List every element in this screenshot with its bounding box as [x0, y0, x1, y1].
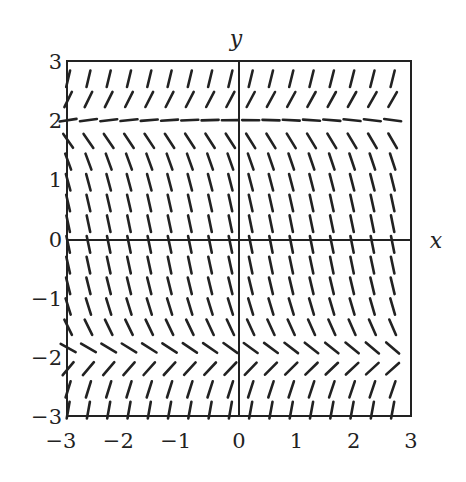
slope-segment [168, 257, 172, 274]
slope-segment [325, 343, 338, 354]
slope-segment [229, 236, 232, 253]
slope-segment [384, 119, 401, 121]
slope-segment [263, 120, 280, 121]
slope-segment [245, 363, 257, 375]
slope-segment [248, 154, 254, 170]
slope-segment [107, 195, 111, 212]
slope-segment [391, 215, 394, 232]
slope-segment [107, 71, 111, 88]
slope-segments [60, 71, 401, 419]
slope-segment [161, 120, 178, 121]
slope-segment [127, 298, 132, 314]
x-tick-label: 0 [232, 429, 245, 453]
slope-segment [330, 278, 334, 295]
slope-segment [225, 363, 237, 375]
slope-segment [249, 195, 253, 212]
slope-segment [101, 344, 116, 353]
y-tick-label: 0 [49, 228, 62, 252]
slope-segment [346, 363, 358, 375]
slope-segment [227, 320, 234, 336]
slope-segment [370, 154, 375, 170]
slope-segment [63, 362, 74, 375]
slope-segment [371, 195, 375, 212]
slope-segment [106, 154, 112, 170]
slope-segment [147, 195, 151, 212]
slope-segment [265, 363, 277, 375]
slope-segment [81, 344, 96, 353]
slope-segment [166, 320, 173, 335]
slope-segment [208, 298, 213, 314]
slope-segment [80, 119, 97, 121]
slope-segment [63, 134, 73, 148]
slope-segment [86, 381, 91, 397]
slope-segment [391, 257, 395, 274]
slope-segment [308, 320, 315, 336]
slope-segment [391, 278, 395, 295]
x-tick-label: −3 [46, 429, 77, 453]
slope-segment [87, 236, 91, 253]
slope-segment [364, 119, 381, 121]
slope-segment [310, 236, 313, 253]
slope-segment [289, 381, 294, 397]
slope-segment [391, 174, 395, 191]
slope-segment [144, 362, 155, 375]
slope-segment [106, 381, 111, 397]
slope-segment [127, 257, 131, 274]
slope-segment [229, 195, 233, 212]
slope-segment [183, 343, 197, 353]
slope-segment [307, 92, 315, 107]
slope-segment [85, 320, 93, 335]
slope-segment [226, 134, 235, 148]
slope-segment [87, 195, 91, 212]
slope-segment [349, 381, 354, 397]
slope-segment [305, 363, 317, 375]
slope-segment [287, 92, 295, 107]
slope-segment [309, 154, 315, 170]
slope-segment [370, 381, 375, 397]
slope-segment [328, 92, 336, 107]
y-axis-label: y [229, 26, 243, 51]
slope-segment [249, 174, 253, 190]
slope-segment [126, 154, 132, 170]
slope-field-chart: 3210−1−2−3 −3−2−10123 y x [0, 0, 466, 482]
slope-segment [269, 278, 273, 295]
slope-segment [350, 195, 354, 212]
slope-segment [107, 236, 110, 253]
slope-segment [289, 71, 293, 88]
slope-segment [208, 236, 211, 253]
slope-segment [368, 92, 376, 107]
slope-segment [168, 278, 172, 295]
slope-segment [350, 257, 353, 274]
slope-segment [249, 215, 252, 232]
slope-segment [165, 134, 174, 148]
slope-segment [167, 298, 172, 314]
slope-segment [125, 92, 133, 107]
slope-segment [127, 278, 131, 295]
slope-segment [208, 71, 212, 88]
slope-segment [208, 381, 213, 397]
slope-segment [208, 278, 212, 295]
x-tick-label: 3 [404, 429, 417, 453]
slope-segment [287, 134, 296, 149]
slope-segment [269, 298, 274, 314]
slope-segment [247, 92, 255, 107]
slope-segment [124, 134, 134, 148]
slope-segment [121, 119, 138, 121]
slope-segment [208, 174, 212, 190]
slope-segment [370, 71, 374, 88]
slope-segment [204, 363, 216, 375]
slope-segment [122, 344, 136, 353]
slope-segment [61, 344, 76, 352]
slope-segment [127, 215, 130, 232]
slope-segment [224, 343, 238, 353]
slope-segment [249, 71, 253, 88]
slope-segment [229, 215, 232, 232]
slope-segment [370, 174, 374, 190]
slope-segment [249, 278, 253, 295]
slope-segment [228, 381, 233, 397]
slope-segment [390, 154, 395, 170]
slope-segment [229, 257, 233, 274]
slope-segment [83, 362, 94, 375]
slope-segment [188, 257, 192, 274]
slope-segment [87, 71, 91, 88]
